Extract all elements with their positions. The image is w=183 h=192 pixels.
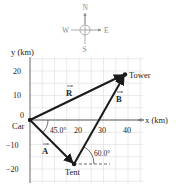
vector-R bbox=[30, 75, 123, 120]
vector-label-A: A bbox=[42, 144, 49, 156]
car-label: Car bbox=[12, 121, 24, 131]
compass-east-label: E bbox=[104, 26, 109, 35]
angle-label-B: 60.0° bbox=[94, 149, 110, 158]
tent-label: Tent bbox=[65, 167, 81, 177]
tower-label: Tower bbox=[129, 70, 151, 80]
y-tick-10: 10 bbox=[13, 91, 21, 100]
vector-label-B: B bbox=[116, 92, 123, 104]
angle-arc-B bbox=[84, 147, 94, 164]
compass-north-label: N bbox=[83, 3, 89, 12]
angle-arc-A bbox=[43, 120, 48, 133]
angle-label-A: 45.0° bbox=[50, 126, 66, 135]
y-axis-label: y (km) bbox=[11, 47, 34, 57]
car-point bbox=[28, 118, 32, 122]
y-tick-0: 0 bbox=[20, 111, 24, 120]
x-tick-20: 20 bbox=[74, 126, 82, 135]
compass-west-label: W bbox=[62, 26, 70, 35]
compass-south-label: S bbox=[83, 45, 87, 54]
y-tick-neg20: −20 bbox=[6, 165, 19, 174]
y-tick-20: 20 bbox=[13, 67, 21, 76]
vector-diagram: N S E W y (km) x (km) 20 10 0 −10 − bbox=[0, 0, 183, 192]
tent-point bbox=[72, 162, 76, 166]
x-axis-label: x (km) bbox=[145, 115, 168, 125]
svg-text:B: B bbox=[116, 94, 122, 104]
compass-rose: N S E W bbox=[62, 3, 109, 54]
x-tick-30: 30 bbox=[98, 126, 106, 135]
tower-point bbox=[123, 72, 127, 76]
y-tick-neg10: −10 bbox=[6, 141, 19, 150]
vector-label-R: R bbox=[66, 86, 73, 98]
svg-text:R: R bbox=[66, 88, 73, 98]
svg-text:A: A bbox=[42, 146, 49, 156]
x-tick-40: 40 bbox=[123, 126, 131, 135]
